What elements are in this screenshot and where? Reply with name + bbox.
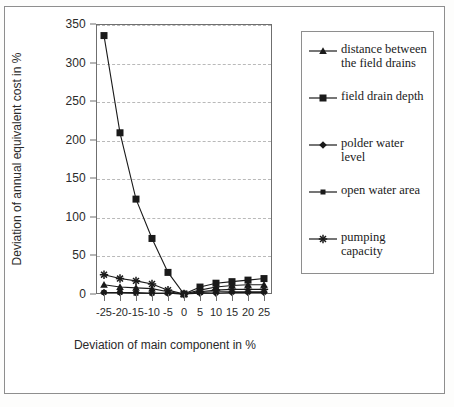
x-tick-label: 25 xyxy=(258,306,270,318)
marker-square-large xyxy=(261,275,268,282)
x-tick-label: -5 xyxy=(163,306,173,318)
marker-asterisk xyxy=(132,277,140,285)
legend-label: pumping capacity xyxy=(338,230,429,258)
marker-asterisk xyxy=(260,285,268,293)
y-tick-label: 100 xyxy=(65,210,86,224)
x-axis: -25-20-15-10-50510152025 xyxy=(96,294,272,334)
marker-square-large xyxy=(229,278,236,285)
marker-square-large xyxy=(133,196,140,203)
x-tick-label: -25 xyxy=(96,306,112,318)
y-tick-label: 0 xyxy=(79,287,86,301)
y-tick-label: 250 xyxy=(65,94,86,108)
x-tick-mark xyxy=(248,294,249,301)
x-tick-mark xyxy=(104,294,105,301)
legend-marker-square-large-icon xyxy=(308,90,338,106)
legend-entry[interactable]: polder water level xyxy=(308,136,429,183)
marker-triangle xyxy=(100,281,108,288)
x-tick-mark xyxy=(184,294,185,301)
figure-root: 050100150200250300350 -25-20-15-10-50510… xyxy=(0,0,454,407)
marker-asterisk xyxy=(228,285,236,293)
marker-asterisk xyxy=(100,271,108,279)
legend-marker-asterisk-icon xyxy=(308,231,338,247)
legend-marker-triangle-icon xyxy=(308,43,338,59)
legend-entry[interactable]: field drain depth xyxy=(308,89,429,136)
marker-square-large xyxy=(165,269,172,276)
x-tick-mark xyxy=(200,294,201,301)
x-tick-label: 15 xyxy=(226,306,238,318)
marker-square-small xyxy=(321,190,326,195)
x-tick-label: 20 xyxy=(242,306,254,318)
x-tick-mark xyxy=(152,294,153,301)
x-tick-label: -10 xyxy=(144,306,160,318)
legend-marker-diamond-icon xyxy=(308,137,338,153)
legend-list: distance between the field drainsfield d… xyxy=(308,42,429,277)
marker-square-large xyxy=(320,95,327,102)
marker-asterisk xyxy=(319,235,327,243)
legend-label: distance between the field drains xyxy=(338,42,429,70)
x-tick-mark xyxy=(136,294,137,301)
series-layer xyxy=(96,24,272,294)
x-axis-title: Deviation of main component in % xyxy=(40,338,290,352)
x-tick-label: 5 xyxy=(197,306,203,318)
x-tick-label: 10 xyxy=(210,306,222,318)
x-tick-mark xyxy=(264,294,265,301)
legend-marker-square-small-icon xyxy=(308,184,338,200)
marker-square-large xyxy=(213,280,220,287)
marker-diamond xyxy=(319,141,327,149)
legend-entry[interactable]: pumping capacity xyxy=(308,230,429,277)
y-tick-label: 350 xyxy=(65,17,86,31)
series-1 xyxy=(101,32,268,297)
x-tick-mark xyxy=(120,294,121,301)
legend-label: polder water level xyxy=(338,136,429,164)
legend-label: field drain depth xyxy=(338,89,429,103)
legend: distance between the field drainsfield d… xyxy=(301,31,434,274)
legend-label: open water area xyxy=(338,183,429,197)
y-tick-label: 50 xyxy=(72,248,86,262)
y-tick-label: 300 xyxy=(65,56,86,70)
y-tick-label: 200 xyxy=(65,133,86,147)
x-tick-mark xyxy=(232,294,233,301)
marker-square-large xyxy=(101,32,108,39)
x-tick-label: -20 xyxy=(112,306,128,318)
marker-asterisk xyxy=(148,280,156,288)
plot-region: 050100150200250300350 -25-20-15-10-50510… xyxy=(0,0,300,388)
legend-entry[interactable]: open water area xyxy=(308,183,429,230)
marker-square-large xyxy=(149,235,156,242)
series-line xyxy=(104,36,264,294)
x-tick-mark xyxy=(168,294,169,301)
x-tick-label: 0 xyxy=(181,306,187,318)
marker-asterisk xyxy=(244,285,252,293)
marker-asterisk xyxy=(116,274,124,282)
y-tick-label: 150 xyxy=(65,171,86,185)
marker-square-large xyxy=(245,277,252,284)
marker-square-large xyxy=(117,129,124,136)
y-axis-title: Deviation of annual equivalent cost in % xyxy=(6,24,28,294)
x-tick-label: -15 xyxy=(128,306,144,318)
legend-entry[interactable]: distance between the field drains xyxy=(308,42,429,89)
x-tick-mark xyxy=(216,294,217,301)
